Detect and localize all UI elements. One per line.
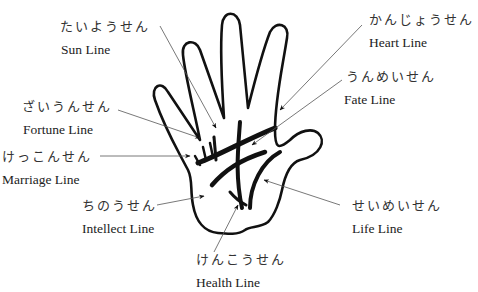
marriage-line-en: Marriage Line xyxy=(2,173,92,187)
health-line-en: Health Line xyxy=(196,276,286,290)
palm-lines-diagram: たいようせん Sun Line かんじょうせん Heart Line うんめいせ… xyxy=(0,0,478,292)
sun-line-jp: たいようせん xyxy=(60,20,150,33)
sun-line xyxy=(214,137,216,160)
heart-line-label: かんじょうせん Heart Line xyxy=(369,13,474,50)
life-leader xyxy=(264,180,340,205)
heart-line-en: Heart Line xyxy=(369,36,474,50)
life-line-en: Life Line xyxy=(352,222,442,236)
fortune-leader xyxy=(118,110,200,138)
health-line-jp: けんこうせん xyxy=(196,253,286,266)
intellect-line-jp: ちのうせん xyxy=(82,199,157,212)
intellect-leader xyxy=(157,196,204,205)
fate-line-label: うんめいせん Fate Line xyxy=(346,70,436,107)
life-line-jp: せいめいせん xyxy=(352,199,442,212)
health-leader xyxy=(214,205,238,252)
heart-line-jp: かんじょうせん xyxy=(369,13,474,26)
marriage-line-label: けっこんせん Marriage Line xyxy=(2,150,92,187)
life-line-label: せいめいせん Life Line xyxy=(352,199,442,236)
marriage-line-jp: けっこんせん xyxy=(2,150,92,163)
intellect-line-en: Intellect Line xyxy=(82,222,157,236)
intellect-line-label: ちのうせん Intellect Line xyxy=(82,199,157,236)
fate-line-en: Fate Line xyxy=(344,93,436,107)
fortune-line-jp: ざいうんせん xyxy=(22,100,112,113)
fortune-line-label: ざいうんせん Fortune Line xyxy=(22,100,112,137)
fortune-line-en: Fortune Line xyxy=(23,123,112,137)
health-line-label: けんこうせん Health Line xyxy=(196,253,286,290)
fortune-line-2 xyxy=(210,143,213,157)
sun-line-label: たいようせん Sun Line xyxy=(60,20,150,57)
fortune-line-1 xyxy=(203,147,206,160)
sun-line-en: Sun Line xyxy=(61,43,150,57)
sun-leader xyxy=(160,26,216,128)
fate-line-jp: うんめいせん xyxy=(346,70,436,83)
